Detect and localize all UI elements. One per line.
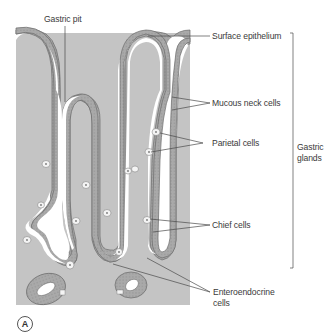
label-parietal-cells: Parietal cells [212, 138, 259, 149]
gland-cross-section-2 [115, 272, 147, 298]
label-gastric-pit: Gastric pit [44, 14, 82, 25]
label-gastric-glands-2: glands [297, 153, 322, 164]
label-chief-cells: Chief cells [212, 220, 251, 231]
label-gastric-glands-1: Gastric [297, 142, 324, 153]
gastric-glands-bracket [290, 33, 293, 268]
panel-label-badge: A [17, 316, 33, 332]
label-mucous-neck-cells: Mucous neck cells [212, 98, 281, 109]
label-enteroendocrine-2: cells [213, 298, 230, 309]
label-enteroendocrine-1: Enteroendocrine [213, 287, 275, 298]
label-surface-epithelium: Surface epithelium [212, 31, 281, 42]
gastric-gland-diagram [0, 0, 334, 336]
